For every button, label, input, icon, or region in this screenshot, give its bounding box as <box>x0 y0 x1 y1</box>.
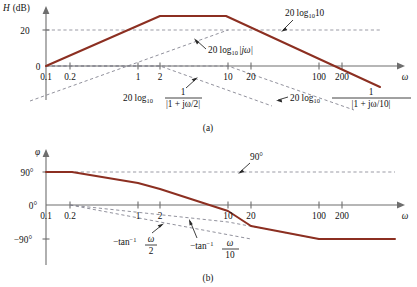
magnitude-xtick-4: 10 <box>223 72 233 82</box>
phase-leader-arrow-3 <box>189 219 193 226</box>
phase-xtick-4: 10 <box>223 211 233 221</box>
magnitude-leader-arrow-2 <box>194 38 199 44</box>
magnitude-xtick-2: 1 <box>136 72 141 82</box>
phase-xtick-0: 0.1 <box>40 211 52 221</box>
phase-annotation-atan2: −tan−1 ω 2 <box>113 234 157 256</box>
phase-xtick-3: 2 <box>158 211 163 221</box>
panel-b-label: (b) <box>203 273 214 284</box>
phase-xtick-5: 20 <box>246 211 256 221</box>
svg-text:1: 1 <box>181 87 186 97</box>
svg-text:20 log10: 20 log10 <box>123 93 153 104</box>
phase-x-axis-label: ω <box>402 211 409 221</box>
panel-a-label: (a) <box>203 123 213 134</box>
svg-text:ω: ω <box>227 238 234 248</box>
phase-annotation-90deg: 90° <box>250 152 263 162</box>
svg-text:1: 1 <box>369 87 374 97</box>
magnitude-annotation-20log10-10: 20 log1010 <box>285 8 325 19</box>
magnitude-ytick-20: 20 <box>20 26 30 36</box>
svg-text:10: 10 <box>225 250 235 260</box>
magnitude-ytick-0: 0 <box>36 62 41 72</box>
magnitude-y-axis-arrow <box>43 6 50 14</box>
phase-y-axis-arrow <box>43 149 50 157</box>
phase-xtick-6: 100 <box>312 211 326 221</box>
magnitude-annotation-pole10: 20 log10 1 |1 + jω/10| <box>290 87 411 109</box>
svg-text:−tan−1: −tan−1 <box>190 240 213 252</box>
svg-text:20 log10: 20 log10 <box>290 93 320 104</box>
phase-ytick-90: 90° <box>20 168 33 178</box>
magnitude-xtick-7: 200 <box>335 72 349 82</box>
magnitude-panel: H(dB) 20 0 0.1 0.2 1 2 10 20 100 200 ω 2… <box>2 3 411 134</box>
phase-y-axis-label: φ <box>35 147 40 157</box>
phase-annotation-atan10: −tan−1 ω 10 <box>190 238 239 260</box>
magnitude-xtick-1: 0.2 <box>64 72 76 82</box>
svg-text:ω: ω <box>148 234 155 244</box>
svg-text:|1 + jω/2|: |1 + jω/2| <box>166 99 200 109</box>
phase-xtick-1: 0.2 <box>64 211 76 221</box>
magnitude-leader-pole10 <box>278 97 288 100</box>
phase-ytick-neg90: −90° <box>14 235 33 245</box>
bode-plot-svg: H(dB) 20 0 0.1 0.2 1 2 10 20 100 200 ω 2… <box>0 0 417 287</box>
phase-xtick-2: 1 <box>136 211 141 221</box>
phase-x-axis-arrow <box>397 202 405 209</box>
magnitude-y-axis-label: H(dB) <box>2 3 30 14</box>
magnitude-annotation-pole2: 20 log10 1 |1 + jω/2| <box>123 87 202 109</box>
phase-asymptote-atan10 <box>70 205 319 239</box>
magnitude-xtick-6: 100 <box>312 72 326 82</box>
magnitude-xtick-5: 20 <box>246 72 256 82</box>
magnitude-xtick-0: 0.1 <box>40 72 52 82</box>
svg-text:2: 2 <box>149 246 154 256</box>
bode-plot-figure: H(dB) 20 0 0.1 0.2 1 2 10 20 100 200 ω 2… <box>0 0 417 287</box>
phase-panel: φ 90° 0° −90° 0.1 0.2 1 2 10 20 100 200 … <box>14 147 409 284</box>
magnitude-xtick-3: 2 <box>158 72 163 82</box>
phase-leader-arrow-2 <box>158 223 164 227</box>
svg-text:|1 + jω/10|: |1 + jω/10| <box>352 99 391 109</box>
phase-xtick-7: 200 <box>335 211 349 221</box>
phase-ytick-0: 0° <box>29 201 38 211</box>
svg-text:−tan−1: −tan−1 <box>113 236 136 248</box>
magnitude-x-axis-label: ω <box>402 72 409 82</box>
magnitude-x-axis-arrow <box>397 63 405 70</box>
magnitude-annotation-20log10-jw: 20 log10|jω| <box>208 45 253 56</box>
